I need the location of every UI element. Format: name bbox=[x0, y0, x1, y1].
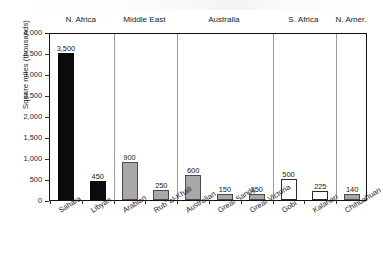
y-tick-label: 3,000 bbox=[24, 70, 43, 79]
group-header-label: S. Africa bbox=[272, 15, 336, 24]
bar-value-label: 500 bbox=[269, 170, 309, 179]
x-tick-mark bbox=[50, 200, 51, 204]
y-tick-label: 500 bbox=[30, 175, 42, 184]
x-tick-mark bbox=[114, 200, 115, 204]
bar-value-label: 250 bbox=[141, 181, 181, 190]
group-header-label: Middle East bbox=[113, 15, 177, 24]
group-header-label: N. Amer. bbox=[335, 15, 367, 24]
bar-arabian bbox=[122, 162, 138, 200]
y-tick-label: 3,500 bbox=[24, 49, 43, 58]
y-tick-label: 2,000 bbox=[24, 112, 43, 121]
y-tick-label: 0 bbox=[38, 196, 42, 205]
bar-value-label: 900 bbox=[110, 153, 150, 162]
group-separator bbox=[336, 34, 337, 200]
plot-area: 3,500450900250600150150500225140 bbox=[49, 33, 367, 201]
group-header-label: N. Africa bbox=[49, 15, 113, 24]
bar-sahara bbox=[58, 53, 74, 200]
bar-value-label: 450 bbox=[78, 172, 118, 181]
y-tick-label: 1,500 bbox=[24, 133, 43, 142]
bar-value-label: 600 bbox=[173, 166, 213, 175]
y-tick-label: 1,000 bbox=[24, 154, 43, 163]
y-tick-label: 4,000 bbox=[24, 28, 43, 37]
bar-value-label: 3,500 bbox=[46, 44, 86, 53]
y-tick-label: 2,500 bbox=[24, 91, 43, 100]
x-tick-mark bbox=[304, 200, 305, 204]
group-separator bbox=[177, 34, 178, 200]
group-header-label: Australia bbox=[176, 15, 271, 24]
